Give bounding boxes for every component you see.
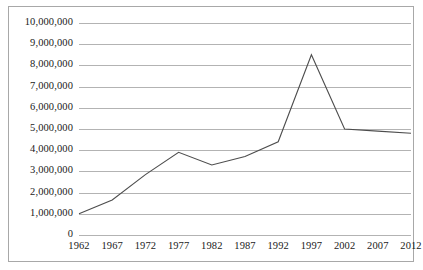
gridline <box>79 235 411 236</box>
y-axis-tick-label: 7,000,000 <box>30 81 73 92</box>
x-axis-tick-label: 2007 <box>367 241 388 252</box>
y-axis-tick-label: 0 <box>68 229 73 240</box>
y-axis-labels: 10,000,0009,000,0008,000,0007,000,0006,0… <box>9 23 73 235</box>
chart-frame: 10,000,0009,000,0008,000,0007,000,0006,0… <box>8 6 414 262</box>
y-axis-tick-label: 8,000,000 <box>30 59 73 70</box>
y-axis-tick-label: 3,000,000 <box>30 165 73 176</box>
series-polyline <box>79 55 411 214</box>
x-axis-tick-label: 1972 <box>135 241 156 252</box>
x-axis-tick-label: 1977 <box>168 241 189 252</box>
plot-area <box>79 23 411 235</box>
x-axis-tick-label: 1982 <box>201 241 222 252</box>
y-axis-tick-label: 5,000,000 <box>30 123 73 134</box>
x-axis-tick-label: 2012 <box>400 241 421 252</box>
x-axis-tick-label: 2002 <box>334 241 355 252</box>
y-axis-tick-label: 1,000,000 <box>30 208 73 219</box>
x-axis-tick-label: 1987 <box>234 241 255 252</box>
y-axis-tick-label: 10,000,000 <box>25 17 73 28</box>
y-axis-tick-label: 2,000,000 <box>30 187 73 198</box>
x-axis-tick-label: 1992 <box>267 241 288 252</box>
y-axis-tick-label: 6,000,000 <box>30 102 73 113</box>
x-axis-tick-label: 1997 <box>301 241 322 252</box>
line-series <box>79 23 411 235</box>
x-axis-tick-label: 1962 <box>68 241 89 252</box>
y-axis-tick-label: 4,000,000 <box>30 144 73 155</box>
x-axis-tick-label: 1967 <box>101 241 122 252</box>
x-axis-labels: 1962196719721977198219871992199720022007… <box>79 241 411 257</box>
y-axis-tick-label: 9,000,000 <box>30 38 73 49</box>
